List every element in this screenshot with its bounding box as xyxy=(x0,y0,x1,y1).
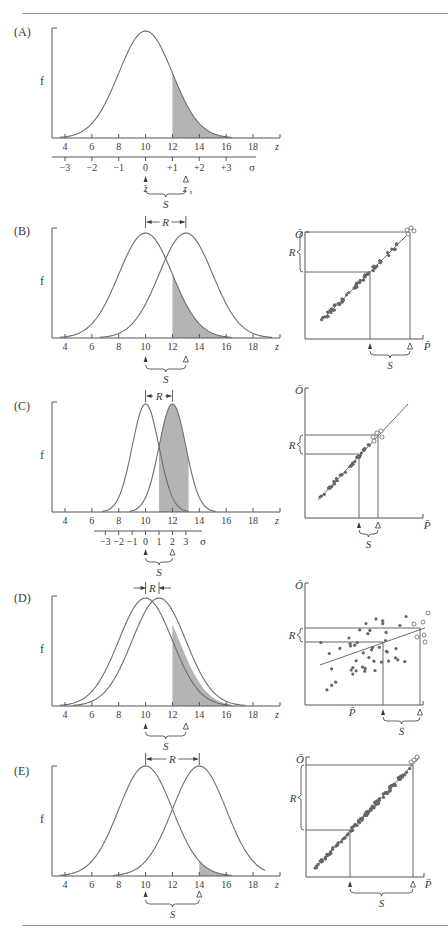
data-point xyxy=(398,624,401,627)
data-point xyxy=(390,247,393,250)
z-tick-label: 16 xyxy=(221,879,231,890)
data-point xyxy=(345,293,348,296)
data-point xyxy=(349,464,352,467)
selected-mean-arrow-icon xyxy=(408,343,413,349)
f-axis-label: f xyxy=(40,448,44,462)
offspring-curve xyxy=(113,766,265,875)
arrow-right-icon xyxy=(166,394,171,398)
sigma-tick-label: 0 xyxy=(143,536,148,547)
z-tick-label: 6 xyxy=(89,341,94,352)
data-point xyxy=(326,311,329,314)
z-tick-label: 14 xyxy=(194,141,204,152)
mean-arrow-icon xyxy=(381,709,385,715)
f-axis-label: f xyxy=(40,812,44,826)
z-tick-label: 16 xyxy=(221,141,231,152)
data-point xyxy=(353,460,356,463)
response-label: R xyxy=(161,216,169,228)
selected-data-point xyxy=(371,435,375,439)
selected-mean-arrow-icon xyxy=(418,709,423,715)
data-point xyxy=(372,269,375,272)
data-point xyxy=(387,254,390,257)
data-point xyxy=(370,648,373,651)
selection-differential-brace xyxy=(146,732,186,739)
data-point xyxy=(373,806,376,809)
selected-data-point xyxy=(412,622,416,626)
data-point xyxy=(403,660,406,663)
data-point xyxy=(339,474,342,477)
O-axis-label: Ō xyxy=(295,384,303,396)
z-tick-label: 8 xyxy=(116,515,121,526)
selected-mean-arrow-icon xyxy=(197,891,202,897)
mean-arrow-icon xyxy=(144,176,148,182)
z-axis-label: z xyxy=(274,515,279,526)
data-point xyxy=(344,836,347,839)
data-point xyxy=(326,854,329,857)
data-point xyxy=(362,651,365,654)
z-tick-label: 16 xyxy=(221,515,231,526)
z-axis-label: z xyxy=(274,341,279,352)
data-point xyxy=(365,814,368,817)
selected-data-point xyxy=(415,755,419,759)
parent-curve xyxy=(60,598,232,705)
selection-differential-label: S xyxy=(399,725,405,737)
sigma-tick-label: −2 xyxy=(87,162,98,173)
panel-label-b: (B) xyxy=(14,224,30,238)
z-tick-label: 10 xyxy=(141,879,151,890)
selected-tail-area xyxy=(172,274,228,338)
distribution-curve xyxy=(60,31,232,137)
data-point xyxy=(330,684,333,687)
z-tick-label: 8 xyxy=(116,341,121,352)
sigma-tick-label: 2 xyxy=(170,536,175,547)
z-tick-label: 6 xyxy=(89,879,94,890)
z-tick-label: 12 xyxy=(167,709,177,720)
selected-data-point xyxy=(426,611,430,615)
panel-label-a: (A) xyxy=(14,25,31,39)
z-tick-label: 14 xyxy=(194,515,204,526)
selected-data-point xyxy=(372,439,376,443)
z-tick-label: 10 xyxy=(141,141,151,152)
selection-differential-label: S xyxy=(387,359,393,371)
P-axis-label: P̄ xyxy=(423,519,431,531)
sigma-tick-label: −3 xyxy=(60,162,71,173)
mean-arrow-icon xyxy=(144,549,148,555)
data-point xyxy=(382,792,385,795)
response-label: R xyxy=(289,792,297,804)
data-point xyxy=(335,477,338,480)
data-point xyxy=(341,301,344,304)
data-point xyxy=(334,681,337,684)
selected-data-point xyxy=(405,228,409,232)
z-tick-label: 6 xyxy=(89,141,94,152)
sigma-axis-label: σ xyxy=(249,161,255,173)
data-point xyxy=(395,243,398,246)
response-label: R xyxy=(155,390,163,402)
selected-data-point xyxy=(423,640,427,644)
sigma-tick-label: −1 xyxy=(127,536,138,547)
sigma-tick-label: 3 xyxy=(183,536,188,547)
P-axis-label: P̄ xyxy=(424,878,432,890)
f-axis-label: f xyxy=(40,274,44,288)
arrow-left-icon xyxy=(159,586,164,590)
data-point xyxy=(358,628,361,631)
data-point xyxy=(323,493,326,496)
selection-differential-label: S xyxy=(170,908,176,920)
selection-differential-label: S xyxy=(156,566,162,578)
data-point xyxy=(340,840,343,843)
z-tick-label: 8 xyxy=(116,709,121,720)
z-tick-label: 14 xyxy=(194,879,204,890)
data-point xyxy=(338,647,341,650)
data-point xyxy=(389,785,392,788)
data-point xyxy=(394,647,397,650)
sigma-tick-label: +3 xyxy=(221,162,232,173)
offspring-curve xyxy=(73,598,245,705)
response-brace xyxy=(297,435,303,454)
response-label: R xyxy=(148,582,156,594)
z-tick-label: 4 xyxy=(63,515,68,526)
mean-arrow-icon xyxy=(368,343,372,349)
data-point xyxy=(366,273,369,276)
O-axis-label: Ō xyxy=(295,579,303,591)
data-point xyxy=(355,669,358,672)
parent-curve xyxy=(60,233,232,337)
mean-label: z̄ xyxy=(143,183,148,194)
mean-arrow-icon xyxy=(144,723,148,729)
z-tick-label: 12 xyxy=(167,515,177,526)
